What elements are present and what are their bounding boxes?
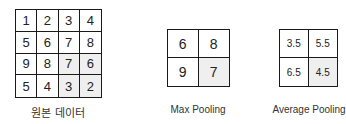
original-data-cell: 5 — [16, 32, 37, 54]
original-data-grid: 1234567898765432 — [15, 9, 102, 98]
average-pooling-cell: 6.5 — [280, 58, 309, 86]
max-pooling-cell: 9 — [168, 58, 199, 86]
average-pooling-label: Average Pooling — [272, 104, 345, 115]
original-data-cell: 1 — [16, 10, 37, 32]
original-data-cell: 8 — [80, 32, 101, 54]
max-pooling-label: Max Pooling — [170, 104, 225, 115]
max-pooling-grid: 6897 — [167, 29, 230, 87]
original-data-cell: 3 — [59, 10, 80, 32]
original-data-cell: 8 — [37, 54, 58, 76]
average-pooling-cell: 4.5 — [309, 58, 338, 86]
original-data-cell: 5 — [16, 75, 37, 97]
original-data-cell: 6 — [37, 32, 58, 54]
original-data-cell: 7 — [59, 54, 80, 76]
original-data-label: 원본 데이터 — [31, 104, 85, 120]
max-pooling-cell: 8 — [199, 30, 230, 58]
average-pooling-grid: 3.55.56.54.5 — [279, 29, 338, 87]
original-data-cell: 6 — [80, 54, 101, 76]
original-data-cell: 2 — [37, 10, 58, 32]
original-data-cell: 3 — [59, 75, 80, 97]
original-data-cell: 7 — [59, 32, 80, 54]
original-data-cell: 2 — [80, 75, 101, 97]
max-pooling-cell: 6 — [168, 30, 199, 58]
average-pooling-cell: 5.5 — [309, 30, 338, 58]
original-data-cell: 9 — [16, 54, 37, 76]
average-pooling-cell: 3.5 — [280, 30, 309, 58]
max-pooling-cell: 7 — [199, 58, 230, 86]
original-data-cell: 4 — [80, 10, 101, 32]
original-data-cell: 4 — [37, 75, 58, 97]
